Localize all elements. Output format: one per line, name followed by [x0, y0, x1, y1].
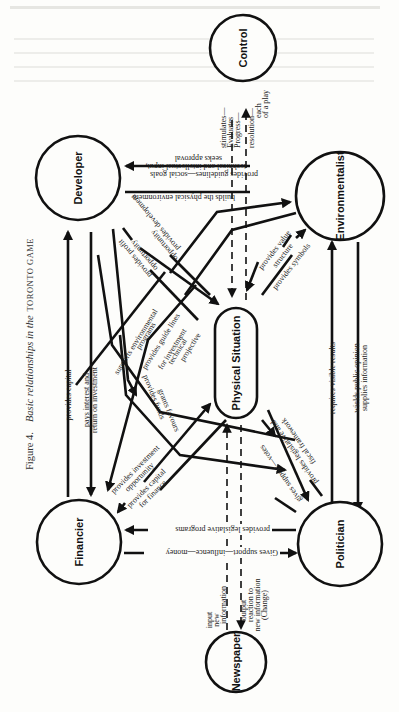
- env-physical-labels: provides value structure provides symbol…: [256, 228, 312, 291]
- support-guide-labels: supports environmental programs provides…: [112, 307, 203, 376]
- figure-caption: Figure 4.Basic relationships in theTORON…: [24, 238, 35, 470]
- fin-pol-labels: provides legislative programs Gives supp…: [144, 524, 280, 558]
- funds-favours-labels: provides funds grants favours: [141, 373, 181, 433]
- node-newspaper: Newspaper: [206, 632, 266, 692]
- svg-text:seeks approval: seeks approval: [174, 154, 222, 163]
- svg-text:return on investment: return on investment: [90, 366, 99, 433]
- node-control: Control: [210, 15, 276, 81]
- svg-text:Control: Control: [237, 28, 249, 67]
- capital-to-fin-edge: [118, 503, 125, 512]
- svg-text:supplies information: supplies information: [360, 345, 369, 411]
- svg-text:Financier: Financier: [73, 517, 85, 567]
- env-pol-labels: requires visible results wields public o…: [328, 342, 369, 414]
- svg-text:Developer: Developer: [72, 151, 84, 205]
- relationship-diagram: Figure 4.Basic relationships in theTORON…: [0, 0, 399, 712]
- svg-text:Physical Situation: Physical Situation: [230, 315, 242, 410]
- dev-diagonal-labels: provides development opportunity provide…: [116, 192, 182, 280]
- node-developer: Developer: [36, 136, 120, 220]
- svg-text:of a play: of a play: [261, 90, 270, 118]
- node-environmentalist: Environmentalist: [296, 151, 384, 241]
- bleed-through-text: [10, 6, 380, 82]
- node-financier: Financier: [37, 500, 121, 584]
- newspaper-labels: input new information output reaction to…: [205, 578, 269, 631]
- node-physical-situation: Physical Situation: [215, 308, 257, 418]
- node-politician: Politician: [298, 502, 382, 586]
- svg-text:Figure 4.Basic relationships i: Figure 4.Basic relationships in theTORON…: [24, 238, 35, 470]
- svg-text:builds the physical environmen: builds the physical environment: [132, 193, 235, 202]
- politician-physical-labels: gives support—votes provides legislative…: [257, 416, 319, 504]
- symbols-arrow-edge: [296, 230, 305, 238]
- svg-text:information: information: [219, 586, 228, 624]
- svg-text:Politician: Politician: [334, 519, 346, 568]
- svg-text:Progress—: Progress—: [233, 111, 242, 148]
- control-labels: stimulates— Evaluates Progress— resoluti…: [219, 90, 270, 148]
- svg-text:provides legislative programs: provides legislative programs: [175, 525, 270, 534]
- svg-text:provides capital: provides capital: [64, 369, 73, 421]
- svg-text:Newspaper: Newspaper: [230, 632, 242, 691]
- investment-to-physical-edge: [160, 420, 226, 490]
- svg-text:Environmentalist: Environmentalist: [334, 151, 346, 241]
- svg-text:requires visible results: requires visible results: [328, 342, 337, 414]
- env-dev-labels: provides guidelines—social goals technic…: [132, 154, 258, 202]
- svg-text:Gives support—influence—money: Gives support—influence—money: [166, 548, 278, 557]
- dev-dash-edge: [123, 228, 132, 240]
- svg-text:(Change): (Change): [260, 590, 269, 620]
